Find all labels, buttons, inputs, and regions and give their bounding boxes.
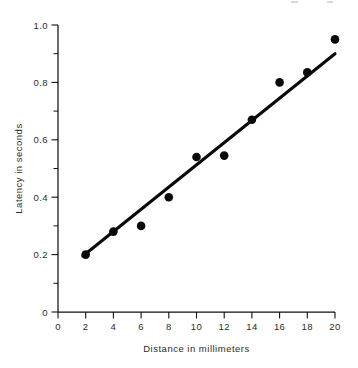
data-point	[137, 222, 146, 231]
data-point	[81, 250, 90, 259]
x-tick-label: 0	[55, 321, 61, 332]
data-point	[331, 35, 340, 44]
x-tick-label: 6	[138, 321, 144, 332]
x-tick-label: 8	[166, 321, 172, 332]
x-axis-tick-labels: 0 2 4 6 8 10 12 14 16 18 20	[55, 321, 341, 332]
axis-lines	[58, 25, 335, 312]
x-tick-label: 20	[329, 321, 340, 332]
x-tick-label: 14	[246, 321, 257, 332]
y-tick-label: 0	[42, 307, 48, 318]
data-point	[275, 78, 284, 87]
data-point	[165, 193, 174, 202]
x-tick-label: 2	[83, 321, 89, 332]
x-axis-title: Distance in millimeters	[143, 343, 250, 354]
x-tick-label: 18	[302, 321, 313, 332]
scatter-plot-canvas: 1.0 0.8 0.6 0.4 0.2 0 0 2 4 6 8	[0, 0, 358, 368]
y-axis-title: Latency in seconds	[13, 123, 24, 213]
x-tick-label: 4	[111, 321, 117, 332]
data-point	[109, 227, 118, 236]
data-point	[303, 68, 312, 77]
scan-speck-icon	[291, 1, 298, 3]
y-tick-label: 0.2	[34, 249, 48, 260]
y-tick-label: 0.8	[34, 77, 48, 88]
fitted-regression-line	[83, 54, 335, 256]
x-tick-label: 12	[219, 321, 230, 332]
data-point	[248, 115, 257, 124]
scan-artifacts	[291, 1, 333, 3]
scan-speck-icon	[327, 1, 333, 3]
y-tick-label: 0.6	[34, 134, 48, 145]
y-tick-label: 1.0	[34, 20, 48, 31]
x-tick-label: 10	[191, 321, 202, 332]
data-point	[220, 151, 229, 160]
data-point	[192, 153, 201, 162]
y-axis-minor-ticks	[54, 54, 59, 284]
x-tick-label: 16	[274, 321, 285, 332]
x-axis-ticks	[58, 312, 335, 319]
y-axis-tick-labels: 1.0 0.8 0.6 0.4 0.2 0	[34, 20, 48, 318]
y-tick-label: 0.4	[34, 192, 48, 203]
chart-figure: 1.0 0.8 0.6 0.4 0.2 0 0 2 4 6 8	[0, 0, 358, 368]
